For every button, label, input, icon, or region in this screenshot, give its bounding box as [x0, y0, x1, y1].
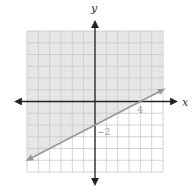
- y-axis-label: y: [90, 2, 98, 15]
- tick-label: 4: [137, 105, 143, 115]
- x-axis-label: x: [182, 96, 189, 109]
- tick-label: −2: [97, 127, 110, 137]
- coordinate-plane: y x 4−2: [0, 0, 196, 193]
